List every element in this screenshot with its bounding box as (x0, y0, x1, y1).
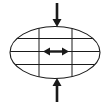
arrow-head (53, 78, 62, 86)
compression-arrow-top-icon (53, 3, 62, 27)
compression-arrow-bottom-icon (53, 78, 62, 102)
diagram-svg (0, 0, 112, 105)
diagram-canvas (0, 0, 112, 105)
arrow-shaft (50, 50, 62, 52)
arrow-shaft (56, 3, 59, 19)
arrow-head (53, 19, 62, 27)
arrow-shaft (56, 86, 59, 102)
